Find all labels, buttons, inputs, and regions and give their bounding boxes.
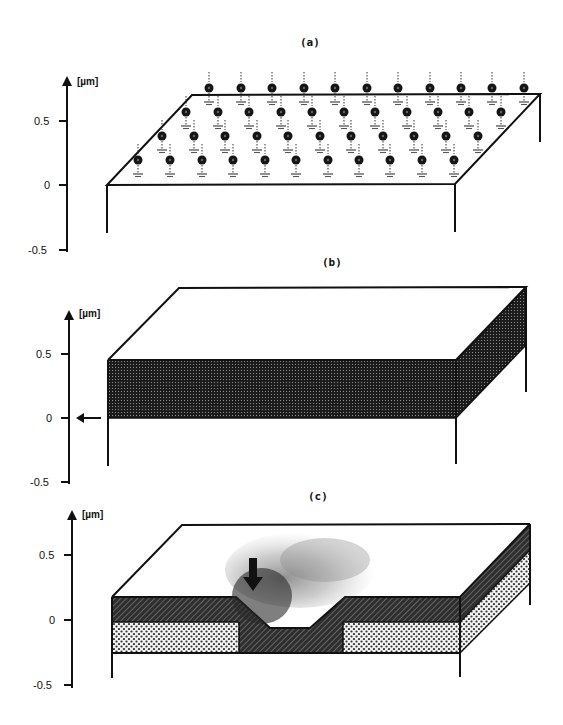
left-arrow-icon xyxy=(76,413,84,423)
axis-arrow-icon xyxy=(64,310,74,320)
tick-neg-0-5-a: -0.5 xyxy=(28,244,47,256)
tick-0-c: 0 xyxy=(49,614,55,626)
panel-label-c: (c) xyxy=(308,490,328,503)
stippled-layer-side xyxy=(456,287,526,418)
panel-c: (c) [µm] 0.5 0 -0.5 xyxy=(33,490,530,691)
axis-unit-b: [µm] xyxy=(79,308,100,319)
axis-arrow-icon xyxy=(67,510,77,520)
zero-level-arrow xyxy=(76,413,101,423)
stippled-layer-front xyxy=(108,360,456,418)
dotted-layer-left xyxy=(113,622,239,653)
axis-unit-a: [µm] xyxy=(77,76,98,87)
axis-a: [µm] 0.5 0 -0.5 xyxy=(28,76,98,256)
figure-canvas: (a) [µm] 0.5 0 -0.5 xyxy=(0,0,563,725)
tick-0-a: 0 xyxy=(44,179,50,191)
panel-b: (b) [µm] 0.5 0 -0.5 xyxy=(30,256,526,488)
block-b xyxy=(108,287,526,466)
axis-b: [µm] 0.5 0 -0.5 xyxy=(30,308,100,488)
tick-neg-0-5-c: -0.5 xyxy=(33,679,52,691)
dotted-layer-right xyxy=(343,622,460,653)
axis-arrow-icon xyxy=(62,76,72,86)
axis-unit-c: [µm] xyxy=(82,509,103,520)
tick-neg-0-5-b: -0.5 xyxy=(30,476,49,488)
panel-label-a: (a) xyxy=(300,36,320,49)
tick-0-5-b: 0.5 xyxy=(36,348,51,360)
charge-array xyxy=(133,72,529,177)
panel-label-b: (b) xyxy=(322,256,342,269)
panel-a: (a) [µm] 0.5 0 -0.5 xyxy=(28,36,540,256)
tick-0-5-c: 0.5 xyxy=(39,549,54,561)
tick-0-5-a: 0.5 xyxy=(34,115,49,127)
axis-c: [µm] 0.5 0 -0.5 xyxy=(33,509,103,691)
tick-0-b: 0 xyxy=(46,412,52,424)
